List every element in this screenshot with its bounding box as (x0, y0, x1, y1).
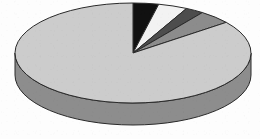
pie-chart-figure (0, 0, 260, 139)
pie-top-faces (15, 3, 251, 103)
pie-chart-canvas (0, 0, 260, 139)
